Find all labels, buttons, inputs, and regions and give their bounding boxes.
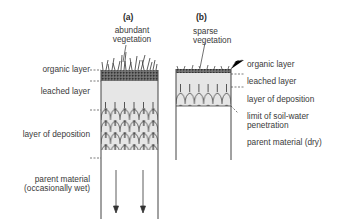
abundant-vegetation-icon — [102, 52, 157, 70]
sparse-vegetation-icon — [177, 65, 229, 69]
profile-b-column — [176, 43, 244, 160]
profile-b-leached-fill — [176, 73, 231, 93]
profile-a-organic-fill — [101, 70, 158, 81]
profile-b-heading: (b) — [196, 12, 207, 22]
profile-b-limit-label: limit of soil-water penetration — [247, 112, 309, 130]
profile-a-deposition-scales — [101, 108, 158, 150]
profile-b-leached-label: leached layer — [247, 77, 296, 86]
profile-b-vegetation-label: sparse vegetation — [193, 27, 231, 45]
downward-water-arrows — [114, 170, 146, 213]
profile-a-organic-label: organic layer — [0, 65, 90, 74]
profile-a-vegetation-label: abundant vegetation — [108, 26, 156, 44]
profile-a-leached-label: leached layer — [0, 87, 90, 96]
profile-a-heading: (a) — [123, 12, 133, 22]
profile-a-leached-fill — [101, 81, 158, 111]
profile-a-parent-label: parent material (occasionally wet) — [0, 175, 90, 193]
profile-b-organic-label: organic layer — [247, 60, 295, 69]
profile-a-deposition-label: layer of deposition — [0, 130, 90, 139]
profile-b-organic-fill — [176, 69, 231, 73]
profile-a-column — [90, 45, 158, 219]
profile-b-deposition-scales — [176, 92, 231, 106]
profile-b-deposition-label: layer of deposition — [247, 95, 314, 104]
profile-b-parent-label: parent material (dry) — [247, 138, 322, 147]
